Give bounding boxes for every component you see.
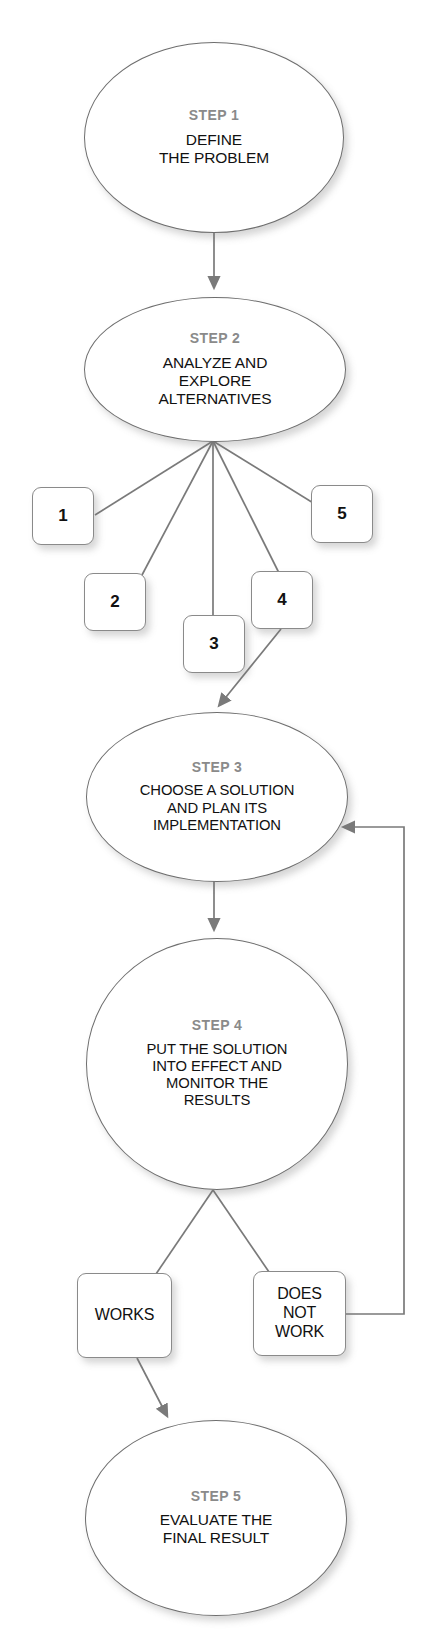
- node-step-4[interactable]: STEP 4 PUT THE SOLUTION INTO EFFECT AND …: [86, 938, 348, 1190]
- node-alternative-2[interactable]: 2: [84, 573, 146, 631]
- alternative-3-label: 3: [209, 634, 218, 654]
- alternative-2-label: 2: [110, 592, 119, 612]
- alternative-5-label: 5: [337, 504, 346, 524]
- connector-step2-to-alt4: [213, 441, 280, 575]
- outcome-does-not-work-label: DOES NOT WORK: [275, 1285, 324, 1342]
- node-outcome-works[interactable]: WORKS: [77, 1273, 172, 1358]
- flowchart-canvas: STEP 1 DEFINE THE PROBLEM STEP 2 ANALYZE…: [0, 0, 432, 1645]
- connector-feedback-to-step3: [346, 827, 404, 1314]
- node-alternative-1[interactable]: 1: [32, 487, 94, 545]
- step-2-label: STEP 2: [190, 331, 240, 346]
- node-step-5[interactable]: STEP 5 EVALUATE THE FINAL RESULT: [85, 1420, 347, 1616]
- alternative-1-label: 1: [58, 506, 67, 526]
- node-step-3[interactable]: STEP 3 CHOOSE A SOLUTION AND PLAN ITS IM…: [86, 712, 348, 882]
- connector-works-to-step5: [137, 1358, 165, 1412]
- connector-step4-to-works: [156, 1190, 213, 1274]
- alternative-4-label: 4: [277, 590, 286, 610]
- connector-step4-to-outcomes: [156, 1190, 269, 1274]
- connector-step2-to-alt2: [142, 441, 213, 575]
- node-alternative-4[interactable]: 4: [251, 571, 313, 629]
- node-alternative-5[interactable]: 5: [311, 485, 373, 543]
- node-step-1[interactable]: STEP 1 DEFINE THE PROBLEM: [84, 42, 344, 233]
- step-5-label: STEP 5: [191, 1489, 241, 1504]
- step-2-text: ANALYZE AND EXPLORE ALTERNATIVES: [159, 354, 272, 408]
- step-3-label: STEP 3: [192, 760, 242, 775]
- step-3-text: CHOOSE A SOLUTION AND PLAN ITS IMPLEMENT…: [140, 782, 295, 833]
- outcome-works-label: WORKS: [95, 1306, 154, 1325]
- step-5-text: EVALUATE THE FINAL RESULT: [160, 1511, 273, 1547]
- step-4-label: STEP 4: [192, 1018, 242, 1033]
- node-step-2[interactable]: STEP 2 ANALYZE AND EXPLORE ALTERNATIVES: [84, 297, 346, 442]
- connector-step4-to-does-not-work: [213, 1190, 269, 1272]
- node-outcome-does-not-work[interactable]: DOES NOT WORK: [253, 1271, 346, 1356]
- connector-step2-to-alt1: [95, 441, 213, 515]
- step-1-label: STEP 1: [189, 108, 239, 123]
- step-1-text: DEFINE THE PROBLEM: [159, 131, 269, 167]
- step-4-text: PUT THE SOLUTION INTO EFFECT AND MONITOR…: [147, 1041, 288, 1110]
- node-alternative-3[interactable]: 3: [183, 615, 245, 673]
